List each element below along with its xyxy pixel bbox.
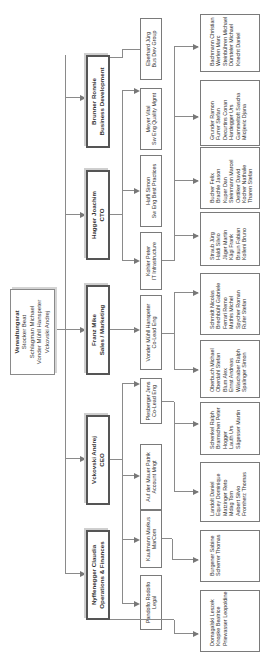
team-box: Landolt Daniel Equey Dominique Matzinger… <box>200 462 260 522</box>
lead-box[interactable]: Meyer Vital Sw Eng Quality Mgmt <box>140 88 162 150</box>
connector <box>162 333 174 334</box>
exec-name: Hagger Joachim <box>90 191 98 239</box>
lead-role: Bus Dev Group <box>151 31 157 68</box>
exec-box-cto[interactable]: Hagger Joachim CTO <box>86 170 110 260</box>
exec-box-business-dev[interactable]: Brunner Ronnie Business Development <box>86 55 110 148</box>
exec-name: Brunner Ronnie <box>90 78 98 125</box>
lead-box[interactable]: Haffi Simon Sw Eng Best Practices <box>140 155 162 227</box>
team-box: Bucher Felix Brachle Jason Kuper Dan Ste… <box>200 147 260 209</box>
board-member: Vckovski Andrej <box>44 311 51 353</box>
connector <box>122 91 123 261</box>
exec-role: CTO <box>98 209 106 222</box>
connector <box>110 214 122 215</box>
team-member: Scherrer Thomas <box>215 534 221 576</box>
connector <box>55 329 65 330</box>
team-box: Schmidt Nicolas Brechbühl Gabriele Ferra… <box>200 273 260 335</box>
lead-box[interactable]: Kohler Peter IT Infrastructure <box>140 232 162 290</box>
connector <box>174 47 175 261</box>
connector <box>174 620 175 634</box>
exec-box-sales[interactable]: Franz Mike Sales / Marketing <box>86 285 110 375</box>
exec-name: Vckovski Andrej <box>90 436 98 484</box>
connector <box>122 329 136 330</box>
arrow-icon <box>193 421 199 427</box>
connector <box>162 260 174 261</box>
team-member: Sägesser Martin <box>235 410 241 449</box>
team-box: Oberbuch Michael Oberdahl Stefan Blum Al… <box>200 340 260 398</box>
connector <box>122 50 123 58</box>
connector <box>110 57 122 58</box>
board-member: Vonder Mühll Hanspeter <box>36 300 43 364</box>
connector <box>65 55 66 574</box>
lead-role: Co-Lead Eng <box>151 317 157 349</box>
lead-role: Co-Lead Eng <box>151 385 157 417</box>
team-box: Straub Jürg Haldi Silvio Jäger Martin Kä… <box>200 212 260 266</box>
exec-name: Nyffenegger Claudia <box>90 545 98 605</box>
lead-role: Account Mngt <box>151 461 157 494</box>
team-box: Bachmann Christian Werlen Marc Steinbühr… <box>200 14 260 72</box>
lead-box[interactable]: Eberhard Jürg Bus Dev Group <box>140 18 162 80</box>
team-member: Knecht Daniel <box>235 32 241 66</box>
lead-role: Sw Eng Best Practices <box>151 164 157 219</box>
team-box: Grunder Ramon Furrer Stefan Decurtins Co… <box>200 80 260 146</box>
team-member: Rufer Stefan <box>241 299 247 329</box>
team-member: Fromherz Thomas <box>241 472 247 516</box>
lead-box[interactable]: Plesberger Jens Co-Lead Eng <box>140 378 162 424</box>
connector <box>174 293 175 370</box>
lead-role: Legal <box>151 596 157 609</box>
lead-role: Sw Eng Quality Mgmt <box>151 93 157 145</box>
lead-box[interactable]: Kaufmann Markus MarCom <box>140 510 162 568</box>
connector <box>174 402 175 492</box>
board-box: Verwaltungsrat Stocker Beat Schlagman Mi… <box>10 289 55 375</box>
exec-role: Operations & Finances <box>98 541 106 608</box>
connector <box>110 619 174 620</box>
connector <box>122 49 140 50</box>
team-box: Domagalski Leszek Knopke Beatrice Priewa… <box>200 590 260 652</box>
arrow-icon <box>193 290 199 296</box>
board-member: Stocker Beat <box>21 315 28 349</box>
lead-role: MarCom <box>151 529 157 550</box>
team-member: Spalinger Simon <box>241 352 247 392</box>
lead-role: IT Infrastructure <box>151 242 157 280</box>
board-member: Schlagman Michael <box>29 306 36 358</box>
exec-role: Business Development <box>98 67 106 135</box>
connector <box>162 401 174 402</box>
arrow-icon <box>193 44 199 50</box>
exec-name: Franz Mike <box>90 314 98 346</box>
connector <box>162 538 172 539</box>
board-title: Verwaltungsrat <box>14 311 21 354</box>
arrow-icon <box>193 367 199 373</box>
exec-box-operations[interactable]: Nyffenegger Claudia Operations & Finance… <box>86 530 110 620</box>
exec-box-ceo[interactable]: Vckovski Andrej CEO <box>86 415 110 505</box>
arrow-icon <box>193 557 199 563</box>
connector <box>110 459 122 460</box>
team-member: Kolleni Bruno <box>241 228 247 260</box>
arrow-icon <box>193 489 199 495</box>
connector <box>110 329 122 330</box>
connector <box>172 539 173 560</box>
team-member: Priewasser Leopoldine <box>222 591 228 646</box>
arrow-icon <box>193 114 199 120</box>
lead-box[interactable]: Vonder Mühll Hanspeter Co-Lead Eng <box>140 295 162 370</box>
lead-box[interactable]: Auf der Mauer Patrik Account Mngt <box>140 444 162 510</box>
exec-role: Sales / Marketing <box>98 305 106 356</box>
team-box: Schenkel Ralph Bramschen Peter Hogger La… <box>200 402 260 455</box>
exec-role: CEO <box>98 453 106 466</box>
org-chart: Verwaltungsrat Stocker Beat Schlagman Mi… <box>0 0 268 664</box>
team-box: Burgener Sabine Scherrer Thomas <box>200 530 260 582</box>
team-member: Micijevic Djana <box>241 104 247 140</box>
lead-box[interactable]: Pandolfo Rodolfo Legal <box>140 575 162 630</box>
team-member: Tharen Stefan <box>247 169 253 203</box>
connector <box>122 384 123 604</box>
arrow-icon <box>193 631 199 637</box>
arrow-icon <box>193 233 199 239</box>
arrow-icon <box>193 178 199 184</box>
